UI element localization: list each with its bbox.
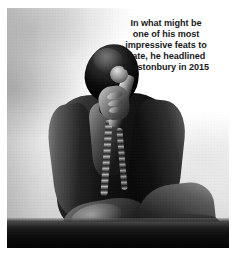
stage-floor-band	[7, 222, 229, 248]
image-card: In what might be one of his most impress…	[0, 0, 236, 260]
caption-text: In what might be one of his most impress…	[112, 18, 220, 73]
